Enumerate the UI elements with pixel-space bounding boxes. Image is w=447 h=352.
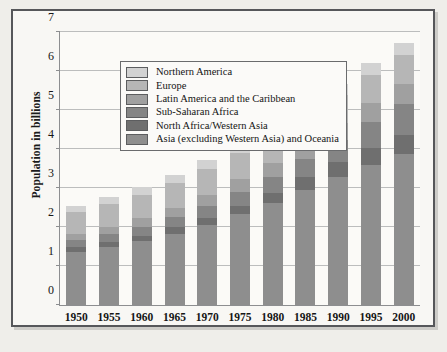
bar-segment [99,227,119,234]
bar-segment [361,165,381,305]
bar-segment [394,55,414,83]
legend-swatch [126,67,148,78]
bar-segment [361,63,381,75]
bar-segment [99,197,119,204]
legend-swatch [126,94,148,105]
bar-segment [295,177,315,189]
x-tick-label: 1980 [261,311,284,323]
bar-segment [361,75,381,103]
bar-segment [230,214,250,305]
bar-segment [394,154,414,305]
bar-segment [165,183,185,208]
legend-item: Asia (excluding Western Asia) and Oceani… [126,132,339,145]
bar-segment [132,187,152,195]
bar-1960 [132,187,152,305]
y-tick-label: 3 [48,166,54,181]
bar-segment [165,208,185,218]
bar-segment [66,212,86,233]
bar-segment [132,195,152,218]
y-tick-label: 0 [48,283,54,298]
bar-segment [165,234,185,305]
x-tick-label: 1990 [327,311,350,323]
bar-segment [99,234,119,242]
bar-1980 [263,126,283,305]
legend-item: North Africa/Western Asia [126,119,339,132]
bar-segment [295,159,315,178]
legend: Northern AmericaEuropeLatin America and … [120,61,347,151]
x-tick-label: 1985 [294,311,317,323]
legend-item: Latin America and the Caribbean [126,93,339,106]
bar-segment [197,206,217,218]
bar-segment [66,240,86,247]
bar-segment [132,241,152,305]
legend-label: Europe [156,81,186,92]
bar-segment [295,190,315,305]
x-tick-label: 2000 [392,311,415,323]
bar-segment [66,234,86,241]
x-tick-label: 1965 [163,311,186,323]
chart-frame: Population in billions 01234567 19501955… [11,9,435,327]
bar-2000 [394,43,414,305]
legend-label: Sub-Saharan Africa [156,107,239,118]
bar-segment [361,148,381,165]
legend-item: Northern America [126,66,339,79]
y-tick-label: 4 [48,127,54,142]
bar-segment [328,177,348,305]
chart-inner-panel: Population in billions 01234567 19501955… [13,11,433,325]
y-tick-label: 7 [48,10,54,25]
legend-item: Europe [126,79,339,92]
bar-segment [394,135,414,154]
x-tick-label: 1970 [196,311,219,323]
x-tick-label: 1950 [65,311,88,323]
bar-segment [230,206,250,215]
legend-label: Asia (excluding Western Asia) and Oceani… [156,134,339,145]
y-tick-label: 2 [48,205,54,220]
bar-segment [99,204,119,227]
bar-segment [263,177,283,193]
bar-1995 [361,63,381,305]
bar-segment [230,179,250,191]
x-tick-label: 1975 [229,311,252,323]
legend-swatch [126,107,148,118]
bar-segment [394,84,414,104]
plot-area: 01234567 1950195519601965197019751980198… [59,32,420,306]
bar-segment [165,217,185,227]
y-tick-label: 5 [48,88,54,103]
bar-segment [197,169,217,195]
bar-segment [263,203,283,305]
bar-segment [132,227,152,236]
legend-swatch [126,134,148,145]
bar-segment [197,195,217,206]
bar-segment [394,43,414,55]
x-tick-label: 1955 [98,311,121,323]
bar-segment [263,163,283,177]
legend-item: Sub-Saharan Africa [126,106,339,119]
y-tick-label: 6 [48,49,54,64]
bar-segment [394,104,414,134]
bar-segment [132,218,152,227]
bar-segment [66,252,86,305]
bar-segment [197,225,217,305]
legend-label: North Africa/Western Asia [156,121,268,132]
bar-segment [197,160,217,169]
bar-segment [99,247,119,306]
legend-label: Latin America and the Caribbean [156,94,295,105]
bar-segment [66,206,86,213]
bar-segment [230,192,250,206]
x-tick-label: 1960 [130,311,153,323]
bar-segment [361,122,381,148]
x-tick-label: 1995 [359,311,382,323]
bar-1970 [197,160,217,305]
y-axis-title: Population in billions [30,60,42,230]
bar-segment [263,193,283,203]
chart-page: Population in billions 01234567 19501955… [0,0,447,352]
bar-1955 [99,197,119,305]
bar-segment [197,218,217,225]
legend-label: Northern America [156,67,232,78]
legend-swatch [126,80,148,91]
bar-1975 [230,144,250,305]
legend-swatch [126,120,148,131]
bar-1965 [165,175,185,305]
bar-segment [165,175,185,183]
bar-segment [361,103,381,122]
